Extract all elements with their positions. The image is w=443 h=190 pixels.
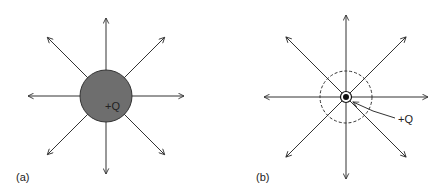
field-line-b-135deg: [286, 37, 346, 97]
charge-label-a: +Q: [105, 100, 120, 112]
diagram-canvas: +Q (a) +Q (b): [0, 0, 443, 190]
field-line-b-45deg: [346, 37, 406, 97]
panel-a: +Q (a): [16, 18, 184, 183]
field-line-b-225deg: [286, 97, 346, 157]
panel-b: +Q (b): [256, 15, 428, 183]
panel-label-a: (a): [16, 171, 29, 183]
field-line-b-315deg: [346, 97, 406, 157]
panel-label-b: (b): [256, 171, 269, 183]
point-charge: [343, 94, 349, 100]
charge-label-b: +Q: [398, 113, 413, 125]
charged-sphere: [80, 70, 132, 122]
